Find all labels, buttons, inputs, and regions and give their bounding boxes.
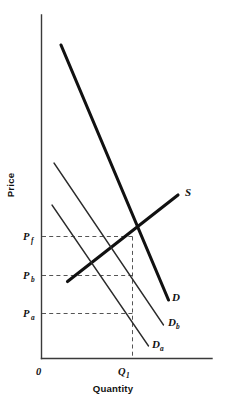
y-tick-price-b: P b <box>23 270 35 284</box>
curve-label-s: S <box>185 186 191 198</box>
x-tick-quantity-1-subscript: 1 <box>126 371 130 380</box>
curve-label-da-subscript: a <box>160 344 164 353</box>
y-tick-price-f-label: P <box>23 231 30 242</box>
curve-label-da-group: D a <box>151 338 164 353</box>
supply-demand-chart: S D D b D a P f P b P a <box>0 0 226 398</box>
origin-label: 0 <box>36 366 42 377</box>
curves-group <box>52 45 178 346</box>
x-tick-quantity-1-label: Q <box>118 366 126 377</box>
y-tick-price-a-subscript: a <box>31 313 35 322</box>
y-tick-price-f: P f <box>23 231 35 245</box>
curve-label-da: D <box>151 338 160 350</box>
y-tick-labels-group: P f P b P a <box>23 231 35 322</box>
x-axis-title: Quantity <box>93 383 134 394</box>
curve-label-db: D <box>167 316 176 328</box>
y-tick-price-b-subscript: b <box>31 275 35 284</box>
demand-curve-db <box>54 163 164 325</box>
curve-label-d: D <box>171 291 180 303</box>
guide-lines-group <box>42 237 133 359</box>
y-axis-title: Price <box>5 173 16 197</box>
x-tick-quantity-1: Q 1 <box>118 366 130 380</box>
y-tick-price-f-subscript: f <box>31 236 35 245</box>
y-tick-price-a: P a <box>23 308 35 322</box>
curve-label-db-group: D b <box>167 316 180 331</box>
chart-canvas: S D D b D a P f P b P a <box>0 0 226 398</box>
y-tick-price-a-label: P <box>23 308 30 319</box>
demand-curve-d <box>61 45 169 300</box>
curve-label-db-subscript: b <box>176 322 180 331</box>
y-tick-price-b-label: P <box>23 270 30 281</box>
